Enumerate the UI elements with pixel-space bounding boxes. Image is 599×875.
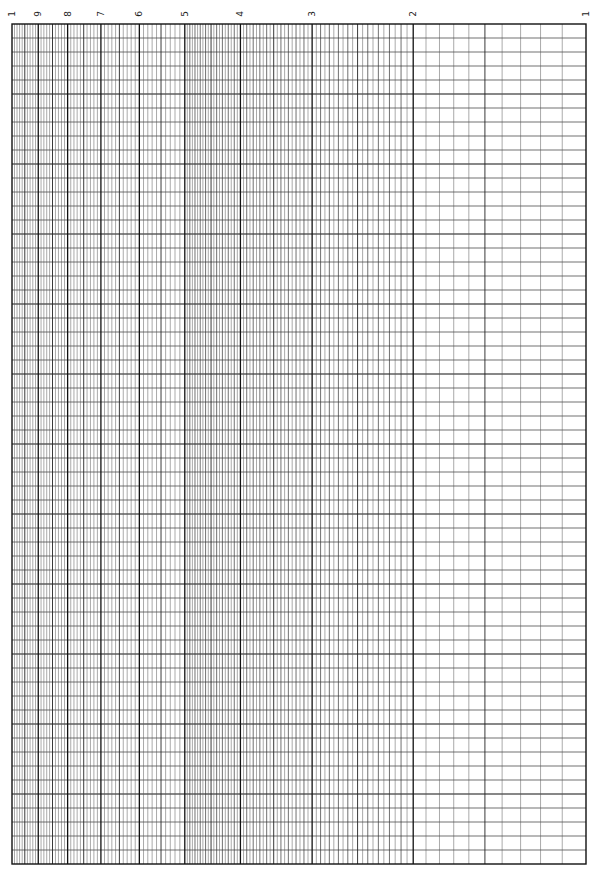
log-graph-paper: 1987654321: [0, 0, 599, 875]
horizontal-grid-lines: [12, 38, 586, 850]
axis-label: 1: [7, 11, 17, 17]
axis-label: 6: [134, 11, 144, 17]
axis-label: 2: [408, 11, 418, 17]
axis-label: 4: [235, 11, 245, 17]
axis-label: 9: [33, 11, 43, 17]
axis-labels: 1987654321: [7, 11, 591, 17]
axis-label: 3: [307, 11, 317, 17]
axis-label: 8: [63, 11, 73, 17]
axis-label: 7: [96, 11, 106, 17]
axis-label: 1: [581, 11, 591, 17]
axis-label: 5: [180, 11, 190, 17]
